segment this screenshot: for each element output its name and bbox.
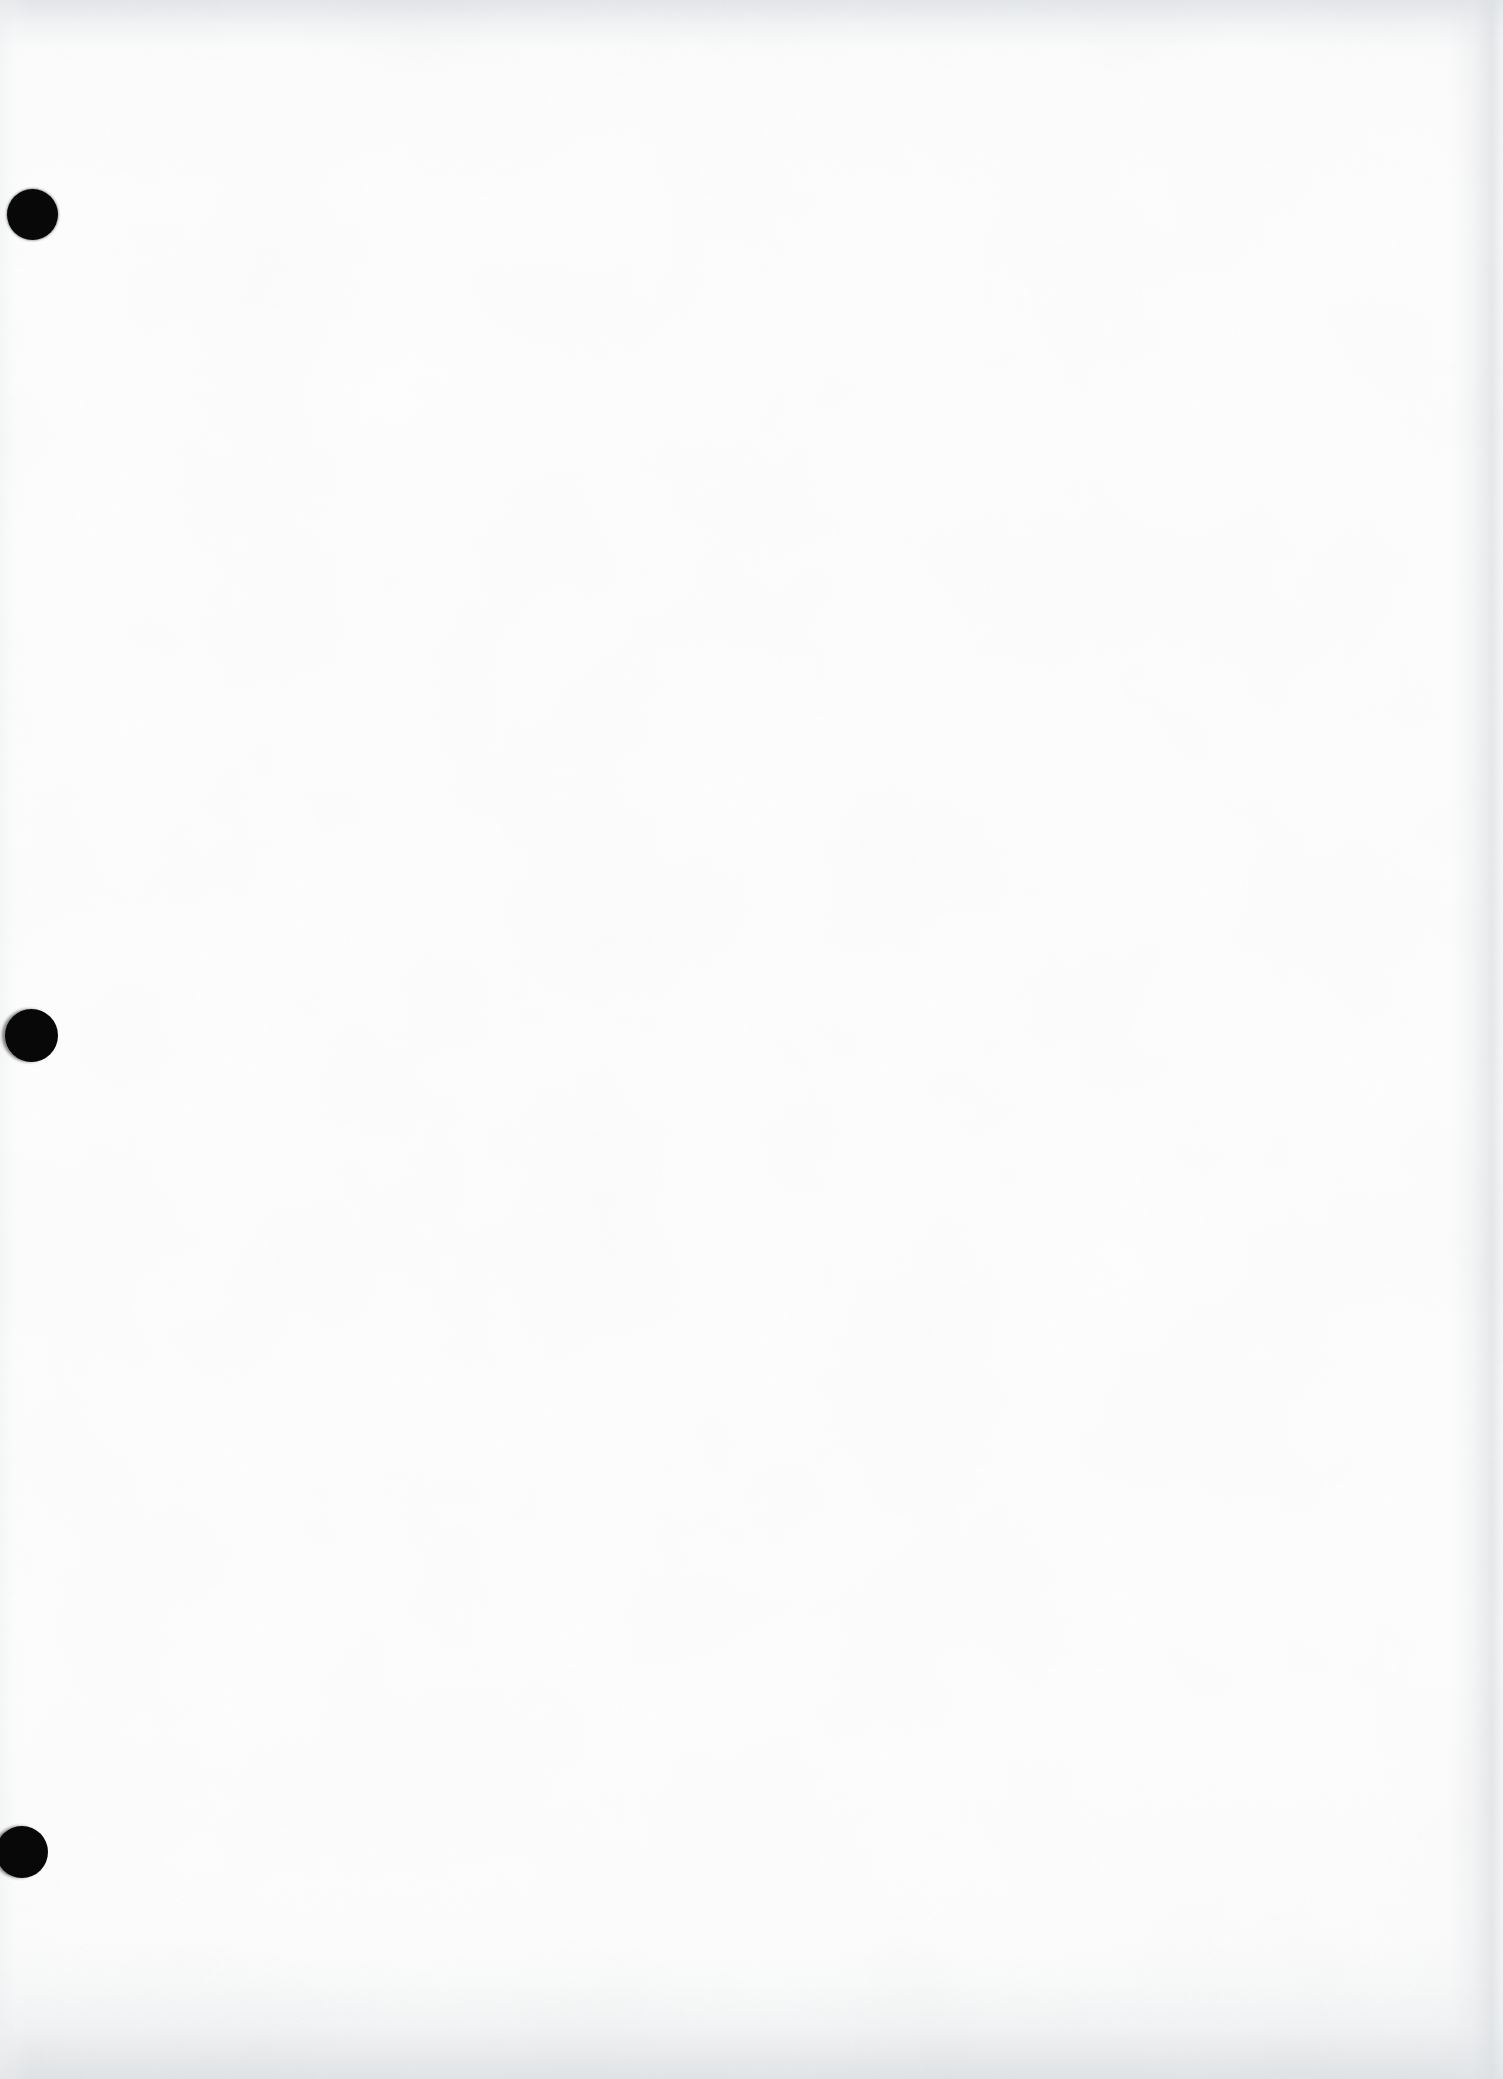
scanned-page xyxy=(0,0,1503,2079)
punch-hole-layer xyxy=(0,0,1503,2079)
punch-hole-bottom xyxy=(0,1826,48,1878)
punch-hole-middle xyxy=(5,1009,58,1062)
punch-hole-top xyxy=(7,189,58,240)
